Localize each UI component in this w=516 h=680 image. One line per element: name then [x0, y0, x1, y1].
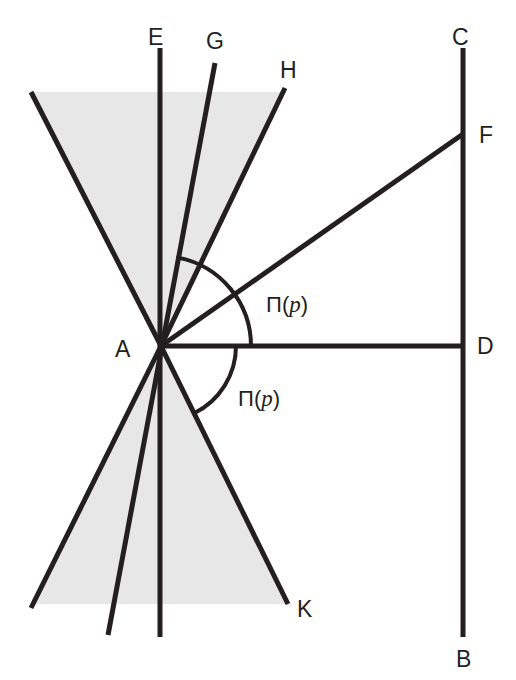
label-H: H: [280, 59, 297, 82]
label-angle-upper-prefix: Π(: [266, 292, 289, 317]
label-G: G: [206, 30, 224, 53]
diagram-canvas: E G H C F D A K B Π(p) Π(p): [0, 0, 516, 680]
label-angle-lower-prefix: Π(: [238, 386, 261, 411]
label-C: C: [452, 26, 469, 49]
label-angle-upper-var: p: [289, 292, 301, 317]
label-angle-upper: Π(p): [266, 293, 308, 316]
label-A: A: [115, 338, 130, 361]
label-D: D: [477, 335, 494, 358]
label-angle-lower-suffix: ): [273, 386, 280, 411]
arc-angle-lower: [194, 346, 236, 413]
label-F: F: [479, 124, 493, 147]
label-B: B: [456, 648, 471, 671]
shaded-region-upper: [31, 92, 283, 346]
geometry-figure: [0, 0, 516, 680]
label-E: E: [148, 26, 163, 49]
label-K: K: [297, 598, 312, 621]
label-angle-lower-var: p: [261, 386, 273, 411]
label-angle-upper-suffix: ): [301, 292, 308, 317]
label-angle-lower: Π(p): [238, 387, 280, 410]
